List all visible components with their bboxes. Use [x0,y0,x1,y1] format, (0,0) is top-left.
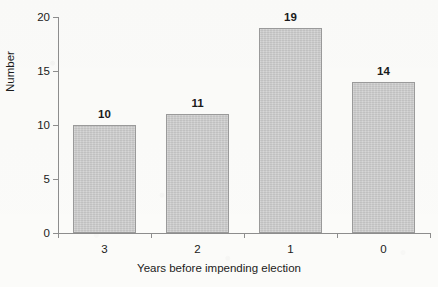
y-tick-label: 15 [37,65,50,77]
y-tick-label: 20 [37,11,50,23]
x-tick-mark [430,233,431,238]
x-tick-mark [58,233,59,238]
bar-0 [352,82,415,233]
bar-2 [166,114,229,233]
x-tick-mark [151,233,152,238]
bar-1 [259,28,322,233]
bar-value-label: 11 [191,97,203,109]
bar-value-label: 14 [377,65,390,77]
x-category-label: 2 [194,243,200,255]
bar-value-label: 10 [98,108,111,120]
y-axis-line [58,17,59,233]
bar-chart-figure: Number 05101520 10111914 3210 Years befo… [0,0,438,287]
bar-value-label: 19 [284,11,297,23]
x-category-label: 0 [380,243,386,255]
y-tick-mark [53,71,58,72]
y-tick-mark [53,125,58,126]
y-tick-label: 5 [44,173,50,185]
y-tick-label: 0 [44,227,50,239]
bar-3 [73,125,136,233]
x-category-label: 1 [287,243,293,255]
x-tick-mark [337,233,338,238]
y-axis-title: Number [4,51,16,92]
plot-area: 05101520 10111914 3210 [58,17,430,233]
x-category-label: 3 [101,243,107,255]
y-tick-mark [53,17,58,18]
x-tick-mark [244,233,245,238]
y-tick-mark [53,179,58,180]
y-tick-label: 10 [37,119,50,131]
x-axis-title: Years before impending election [0,262,438,274]
